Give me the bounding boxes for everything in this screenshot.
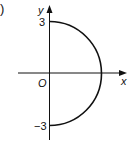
y-tick-label-bottom: −3 [34,120,47,132]
x-axis-label: x [120,75,127,87]
y-axis-label: y [37,4,45,16]
part-label: ) [0,1,4,16]
y-axis-arrow-icon [47,5,53,13]
y-tick-label-top: 3 [39,16,45,28]
semicircle-diagram: ) y x O 3 −3 [0,0,134,142]
origin-label: O [38,77,47,89]
